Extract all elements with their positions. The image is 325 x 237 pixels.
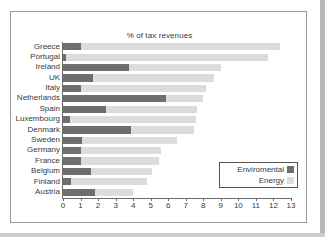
bar-segment-energy: [81, 43, 280, 50]
bar-segment-energy: [70, 116, 196, 123]
x-tick-label: 11: [252, 201, 260, 210]
stacked-bar: [63, 43, 280, 50]
x-tick-label: 8: [201, 201, 205, 210]
stacked-bar: [63, 137, 177, 144]
bar-segment-energy: [81, 157, 158, 164]
bar-segment-energy: [95, 189, 134, 196]
y-axis-label: Finland: [34, 177, 60, 187]
y-axis-label: Luxembourg: [16, 114, 60, 124]
x-tick-label: 13: [287, 201, 296, 210]
legend-label-environmental: Enviromental: [237, 165, 284, 174]
stacked-bar: [63, 178, 147, 185]
bar-segment-energy: [166, 95, 203, 102]
x-tick-label: 2: [96, 201, 100, 210]
x-tick-label: 0: [61, 201, 65, 210]
bar-segment-environmental: [63, 64, 129, 71]
stacked-bar: [63, 189, 133, 196]
stacked-bar: [63, 168, 152, 175]
page-edge-right: [320, 0, 325, 237]
bar-segment-environmental: [63, 189, 95, 196]
bar-segment-environmental: [63, 85, 81, 92]
stacked-bar: [63, 95, 203, 102]
chart-frame: % of tax revenues GreecePortugalIrelandU…: [10, 11, 307, 223]
stacked-bar: [63, 116, 196, 123]
bar-segment-energy: [131, 126, 194, 133]
legend-swatch-energy: [287, 177, 294, 184]
x-axis-ticks: 012345678910111213: [63, 199, 291, 213]
bar-row: [63, 52, 291, 62]
bar-segment-energy: [66, 54, 269, 61]
bar-segment-environmental: [63, 106, 106, 113]
bar-segment-energy: [81, 147, 161, 154]
y-axis-label: Austria: [35, 187, 60, 197]
bar-row: [63, 94, 291, 104]
bar-segment-environmental: [63, 137, 82, 144]
chart-title: % of tax revenues: [11, 31, 308, 40]
y-axis-label: Portugal: [30, 52, 60, 62]
bar-row: [63, 125, 291, 135]
x-tick-label: 7: [184, 201, 188, 210]
y-axis-label: Spain: [40, 104, 60, 114]
bar-row: [63, 146, 291, 156]
legend-item-environmental: Enviromental: [222, 164, 294, 175]
chart-legend: Enviromental Energy: [219, 162, 298, 188]
bar-row: [63, 136, 291, 146]
bar-segment-environmental: [63, 74, 93, 81]
x-tick-label: 1: [78, 201, 82, 210]
bar-segment-environmental: [63, 157, 81, 164]
bar-segment-energy: [71, 178, 147, 185]
page-edge-bottom: [0, 233, 325, 237]
x-tick-label: 4: [131, 201, 135, 210]
stacked-bar: [63, 126, 194, 133]
stacked-bar: [63, 64, 221, 71]
bar-segment-energy: [93, 74, 214, 81]
x-tick-label: 9: [219, 201, 223, 210]
y-axis-label: Belgium: [31, 166, 60, 176]
bar-row: [63, 115, 291, 125]
bar-segment-energy: [129, 64, 221, 71]
y-axis-label: France: [35, 156, 60, 166]
legend-label-energy: Energy: [259, 176, 284, 185]
bar-segment-environmental: [63, 147, 81, 154]
y-axis-label: Netherlands: [17, 93, 60, 103]
stacked-bar: [63, 74, 214, 81]
y-axis-label: Sweden: [31, 135, 60, 145]
y-axis-label: Denmark: [28, 125, 60, 135]
bar-segment-environmental: [63, 43, 81, 50]
bar-segment-environmental: [63, 168, 91, 175]
bar-segment-environmental: [63, 178, 71, 185]
bar-row: [63, 63, 291, 73]
bar-segment-energy: [82, 137, 177, 144]
x-tick-label: 5: [148, 201, 152, 210]
y-axis-label: Ireland: [36, 62, 60, 72]
bar-row: [63, 84, 291, 94]
y-axis-label: UK: [49, 73, 60, 83]
x-tick-label: 12: [269, 201, 278, 210]
bar-row: [63, 42, 291, 52]
legend-swatch-environmental: [287, 166, 294, 173]
bar-segment-energy: [91, 168, 152, 175]
x-tick-label: 6: [166, 201, 170, 210]
stacked-bar: [63, 147, 161, 154]
x-tick-label: 10: [234, 201, 243, 210]
bar-row: [63, 73, 291, 83]
screenshot-root: % of tax revenues GreecePortugalIrelandU…: [0, 0, 325, 237]
bar-row: [63, 187, 291, 197]
y-axis-label: Italy: [45, 83, 60, 93]
x-tick-label: 3: [113, 201, 117, 210]
bar-segment-environmental: [63, 116, 70, 123]
y-axis-label: Germany: [27, 145, 60, 155]
bar-segment-environmental: [63, 126, 131, 133]
stacked-bar: [63, 157, 159, 164]
stacked-bar: [63, 106, 197, 113]
stacked-bar: [63, 54, 268, 61]
stacked-bar: [63, 85, 206, 92]
bar-segment-energy: [106, 106, 197, 113]
bar-segment-environmental: [63, 95, 166, 102]
y-axis-label: Greece: [34, 42, 60, 52]
legend-item-energy: Energy: [222, 175, 294, 186]
bar-segment-energy: [81, 85, 206, 92]
bar-row: [63, 104, 291, 114]
